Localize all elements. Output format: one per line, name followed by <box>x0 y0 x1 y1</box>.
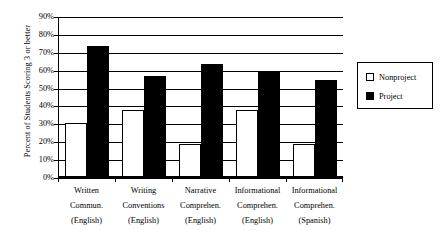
bar-project <box>315 80 337 178</box>
legend-item-nonproject: Nonproject <box>366 72 416 82</box>
y-axis-tick-label: 80% <box>26 31 54 39</box>
y-axis-tick-label: 40% <box>26 102 54 110</box>
legend-label-nonproject: Nonproject <box>379 73 416 82</box>
bar-project <box>87 46 109 178</box>
y-axis-tick-label: 10% <box>26 156 54 164</box>
bar-project <box>201 64 223 178</box>
bar-project <box>144 76 166 178</box>
bar-nonproject <box>293 144 315 178</box>
legend-label-project: Project <box>379 92 403 101</box>
y-axis-tick-label: 60% <box>26 67 54 75</box>
x-axis-tick-mark <box>58 177 59 182</box>
x-axis-category-label-line: Comprehen. <box>279 198 351 213</box>
bar-chart: Percent of Students Scoring 3 or better … <box>0 0 445 231</box>
legend-swatch-project-icon <box>366 92 374 100</box>
x-axis-category-labels: WrittenCommun.(English)WritingConvention… <box>46 183 356 229</box>
plot-area <box>58 17 343 178</box>
chart-legend: Nonproject Project <box>357 62 433 109</box>
x-axis-tick-mark <box>286 177 287 182</box>
bar-nonproject <box>236 110 258 178</box>
legend-swatch-nonproject-icon <box>366 73 374 81</box>
bar-nonproject <box>122 110 144 178</box>
bar-project <box>258 71 280 178</box>
x-axis-tick-mark <box>115 177 116 182</box>
x-axis-tick-mark <box>172 177 173 182</box>
gridline <box>58 178 343 179</box>
y-axis-tick-label: 70% <box>26 49 54 57</box>
x-axis-line <box>58 176 343 178</box>
legend-item-project: Project <box>366 91 403 101</box>
x-axis-category-label-line: (Spanish) <box>279 213 351 228</box>
bar-nonproject <box>65 123 87 178</box>
x-axis-category-label: InformationalComprehen.(Spanish) <box>279 183 351 228</box>
x-axis-tick-mark <box>229 177 230 182</box>
x-axis-category-label-line: Informational <box>279 183 351 198</box>
y-axis-tick-label: 0% <box>26 174 54 182</box>
x-axis-tick-mark <box>342 177 343 182</box>
y-axis-tick-label: 30% <box>26 120 54 128</box>
y-axis-tick-label: 90% <box>26 13 54 21</box>
y-axis-tick-label: 50% <box>26 85 54 93</box>
bar-nonproject <box>179 144 201 178</box>
y-axis-tick-labels: 90%80%70%60%50%40%30%20%10%0% <box>26 17 54 178</box>
y-axis-tick-label: 20% <box>26 138 54 146</box>
bars-layer <box>58 17 343 178</box>
